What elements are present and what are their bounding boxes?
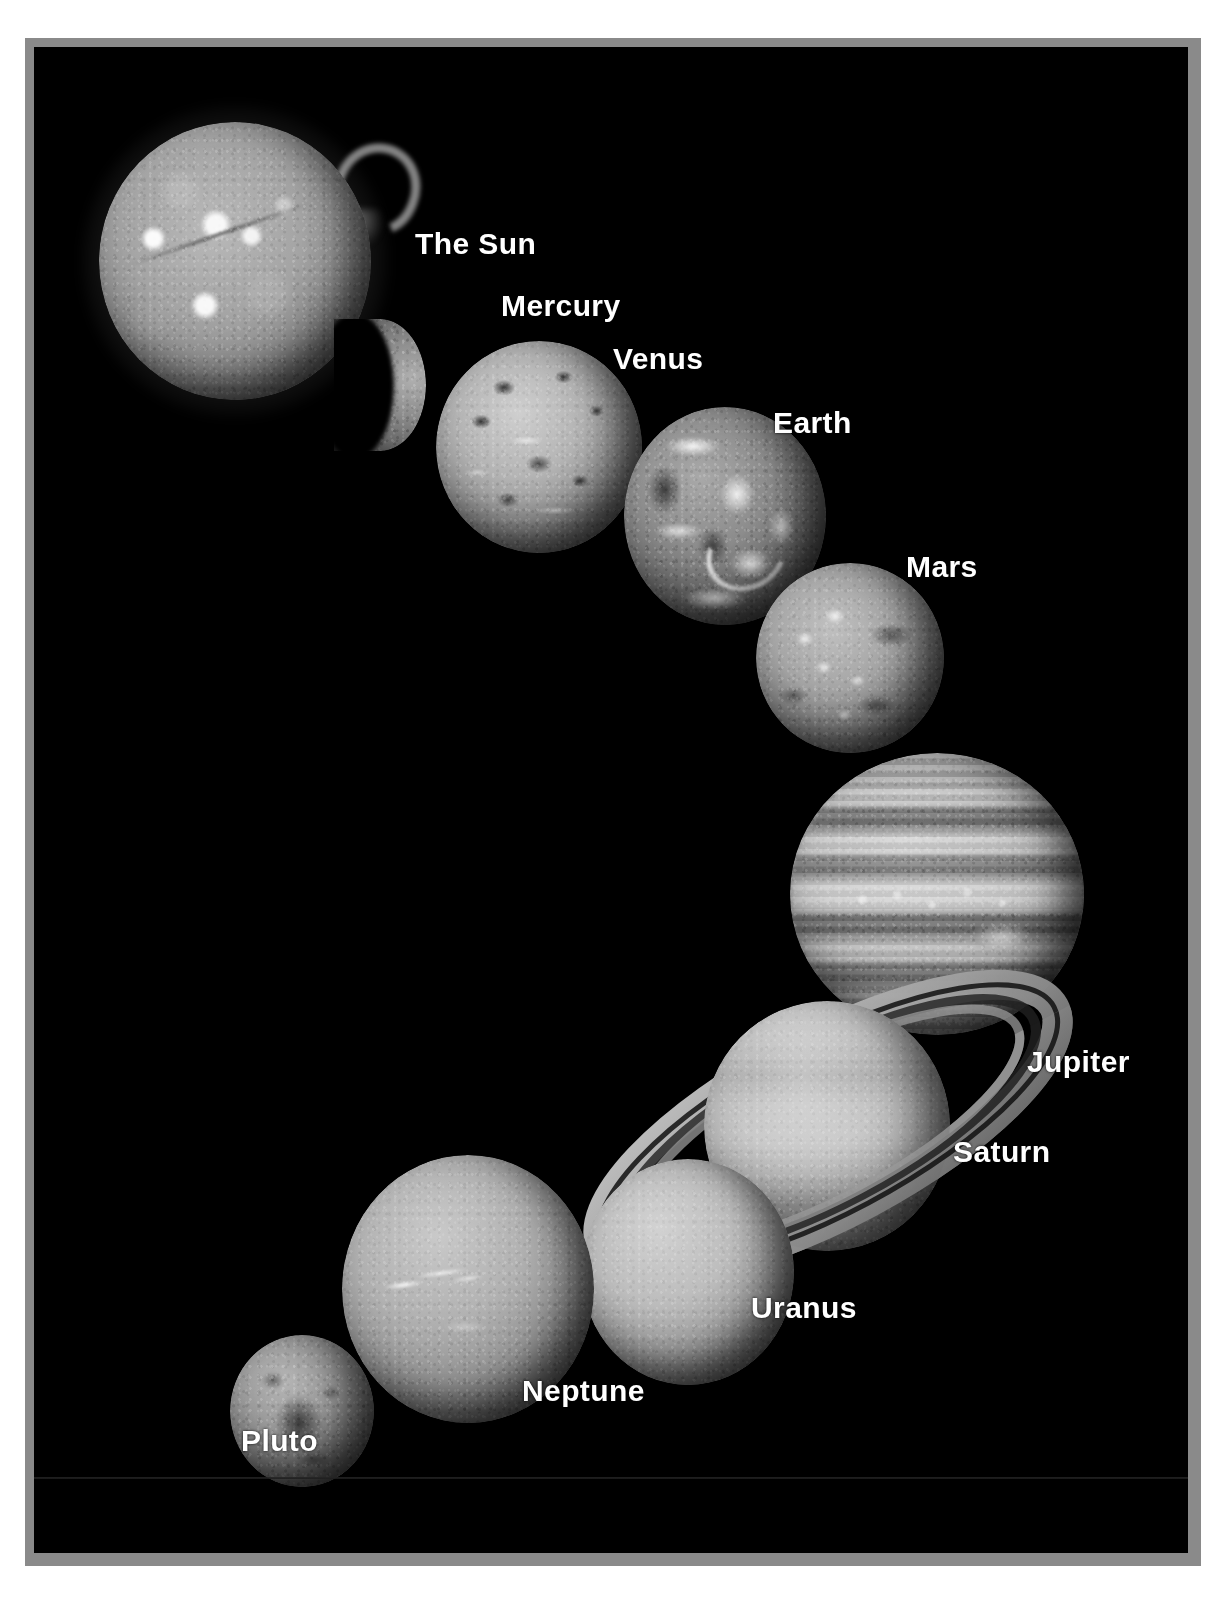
uranus-disc-icon [582,1159,794,1385]
label-uranus: Uranus [751,1293,857,1323]
label-mercury: Mercury [501,291,621,321]
venus-disc-icon [436,341,642,553]
label-the-sun: The Sun [415,229,536,259]
label-pluto: Pluto [241,1426,318,1456]
label-jupiter: Jupiter [1027,1047,1130,1077]
image-seam-line [34,1477,1188,1479]
uranus-limb-shading [582,1159,794,1385]
sun-limb-shading [99,122,371,400]
label-neptune: Neptune [522,1376,645,1406]
mars-limb-shading [756,563,944,753]
mars-disc-icon [756,563,944,753]
poster-frame: The Sun Mercury Venus Earth Mars Jupiter… [25,38,1201,1566]
label-saturn: Saturn [953,1137,1050,1167]
venus-limb-shading [436,341,642,553]
mercury-crescent-icon [334,319,426,451]
pluto-limb-shading [230,1335,374,1487]
pluto-disc-icon [230,1335,374,1487]
sun-disc-icon [99,122,371,400]
poster-page: The Sun Mercury Venus Earth Mars Jupiter… [0,0,1222,1603]
label-mars: Mars [906,552,978,582]
label-venus: Venus [613,344,703,374]
mercury-terminator-shadow [334,319,394,451]
label-earth: Earth [773,408,852,438]
solar-system-montage: The Sun Mercury Venus Earth Mars Jupiter… [34,47,1188,1553]
